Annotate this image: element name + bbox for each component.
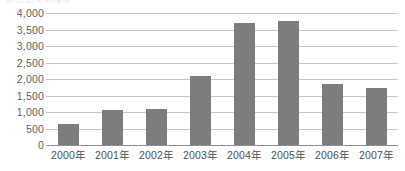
x-axis-tick-label: 2000年 xyxy=(45,149,91,161)
bar[interactable] xyxy=(366,88,387,145)
bar[interactable] xyxy=(58,124,79,145)
y-axis-tick-label: 2,000 xyxy=(2,74,44,85)
y-axis-tick-label: 4,000 xyxy=(2,8,44,19)
x-axis-tick-label: 2003年 xyxy=(177,149,223,161)
x-axis-tick-label: 2004年 xyxy=(221,149,267,161)
y-axis-tick-label: 1,000 xyxy=(2,107,44,118)
x-axis-tick-label: 2002年 xyxy=(133,149,179,161)
x-axis-tick-label: 2007年 xyxy=(353,149,399,161)
bar[interactable] xyxy=(146,109,167,145)
bar[interactable] xyxy=(190,76,211,145)
x-axis-labels: 2000年2001年2002年2003年2004年2005年2006年2007年 xyxy=(46,149,398,169)
x-axis-tick-label: 2005年 xyxy=(265,149,311,161)
y-axis-tick-label: 3,000 xyxy=(2,41,44,52)
bar[interactable] xyxy=(322,84,343,145)
y-axis-tick-label: 2,500 xyxy=(2,58,44,69)
bar[interactable] xyxy=(102,110,123,145)
x-axis-line xyxy=(46,145,398,146)
y-axis-tick-label: 3,500 xyxy=(2,25,44,36)
y-axis-labels: 4,0003,5003,0002,5002,0001,5001,0005000 xyxy=(0,0,44,171)
bar[interactable] xyxy=(278,21,299,145)
bar[interactable] xyxy=(234,23,255,145)
x-axis-tick-label: 2006年 xyxy=(309,149,355,161)
x-axis-tick-label: 2001年 xyxy=(89,149,135,161)
y-axis-tick-label: 1,500 xyxy=(2,91,44,102)
bar-series xyxy=(46,13,398,145)
y-axis-tick-label: 0 xyxy=(2,140,44,151)
chart-screenshot: 調査結果の推移 4,0003,5003,0002,5002,0001,5001,… xyxy=(0,0,405,171)
plot-area xyxy=(46,13,398,145)
bar-chart: 4,0003,5003,0002,5002,0001,5001,0005000 … xyxy=(0,0,405,171)
y-axis-tick-label: 500 xyxy=(2,124,44,135)
